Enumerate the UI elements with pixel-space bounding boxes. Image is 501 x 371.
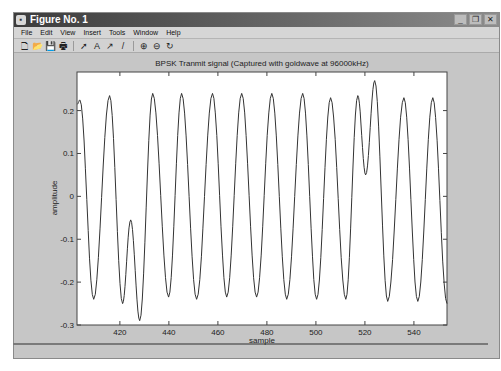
x-tick-label: 540	[407, 328, 421, 337]
x-tick-label: 440	[162, 328, 176, 337]
y-tick-label: 0	[70, 192, 75, 201]
chart-title: BPSK Tranmit signal (Captured with goldw…	[155, 59, 369, 68]
x-tick-label: 520	[358, 328, 372, 337]
x-axis-label: sample	[249, 336, 275, 345]
y-axis-label: amplitude	[50, 180, 59, 215]
plot-svg: 4204404604805005205400.20.10-0.1-0.2-0.3…	[0, 0, 501, 371]
y-tick-label: -0.1	[60, 235, 74, 244]
y-tick-label: 0.1	[63, 149, 75, 158]
x-tick-label: 420	[113, 328, 127, 337]
y-tick-label: -0.2	[60, 278, 74, 287]
x-tick-label: 500	[309, 328, 323, 337]
x-tick-label: 460	[211, 328, 225, 337]
y-tick-label: -0.3	[60, 321, 74, 330]
y-tick-label: 0.2	[63, 107, 75, 116]
axes-box[interactable]	[77, 72, 447, 325]
